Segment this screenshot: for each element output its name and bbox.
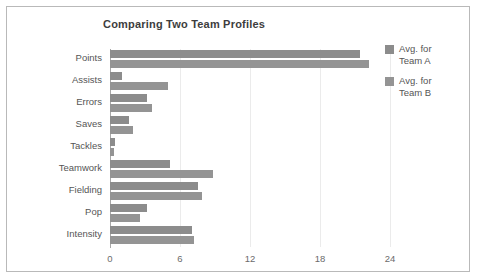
bar xyxy=(110,214,140,222)
bar xyxy=(110,192,202,200)
x-axis-tick-label: 6 xyxy=(177,253,182,264)
x-axis-tick-label: 18 xyxy=(315,253,326,264)
bar xyxy=(110,116,129,124)
bar-group: Assists xyxy=(110,71,390,93)
bar xyxy=(110,182,198,190)
category-label: Tackles xyxy=(70,140,102,151)
legend-item[interactable]: Avg. for Team A xyxy=(385,43,469,66)
bar xyxy=(110,236,194,244)
bar xyxy=(110,148,114,156)
legend-label: Avg. for Team A xyxy=(399,43,432,66)
category-label: Pop xyxy=(85,206,102,217)
chart-frame: Comparing Two Team Profiles PointsAssist… xyxy=(6,6,470,272)
bar-group: Pop xyxy=(110,203,390,225)
bar xyxy=(110,60,369,68)
category-label: Fielding xyxy=(69,184,102,195)
category-label: Teamwork xyxy=(59,162,102,173)
bar-group: Errors xyxy=(110,93,390,115)
category-label: Points xyxy=(76,52,102,63)
x-axis-tick-label: 24 xyxy=(385,253,396,264)
legend-swatch-icon xyxy=(385,77,394,86)
category-label: Intensity xyxy=(67,228,102,239)
bar xyxy=(110,72,122,80)
chart-legend: Avg. for Team AAvg. for Team B xyxy=(385,43,469,107)
x-axis-tick-label: 12 xyxy=(245,253,256,264)
bar xyxy=(110,126,133,134)
x-axis-tick-label: 0 xyxy=(107,253,112,264)
plot-area: PointsAssistsErrorsSavesTacklesTeamworkF… xyxy=(110,49,390,247)
category-label: Assists xyxy=(72,74,102,85)
bar-group: Points xyxy=(110,49,390,71)
chart-title: Comparing Two Team Profiles xyxy=(103,18,265,30)
bar-group: Fielding xyxy=(110,181,390,203)
legend-swatch-icon xyxy=(385,45,394,54)
category-label: Errors xyxy=(76,96,102,107)
bar xyxy=(110,170,213,178)
bar-group: Tackles xyxy=(110,137,390,159)
category-label: Saves xyxy=(76,118,102,129)
legend-label: Avg. for Team B xyxy=(399,75,432,98)
bar xyxy=(110,204,147,212)
bar xyxy=(110,160,170,168)
bar-group: Saves xyxy=(110,115,390,137)
bar xyxy=(110,138,115,146)
bar xyxy=(110,226,192,234)
bar xyxy=(110,50,360,58)
bar xyxy=(110,94,147,102)
bar-group: Teamwork xyxy=(110,159,390,181)
bar xyxy=(110,104,152,112)
legend-item[interactable]: Avg. for Team B xyxy=(385,75,469,98)
bar xyxy=(110,82,168,90)
bar-group: Intensity xyxy=(110,225,390,247)
